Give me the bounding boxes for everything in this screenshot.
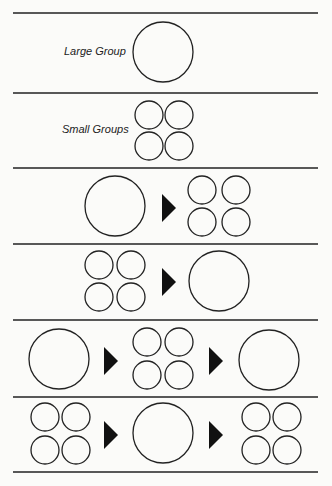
large-group-circle [133,403,193,463]
small-groups-cluster [85,251,145,311]
large-group-circle [133,22,193,82]
arrow-right-icon [162,268,176,296]
small-groups-cluster [135,101,193,160]
large-group-circle [239,330,299,390]
large-group-label: Large Group [64,45,126,57]
arrow-right-icon [209,421,223,449]
arrow-right-icon [162,194,176,222]
large-group-circle [85,176,145,236]
small-groups-cluster [188,176,250,236]
diagram-canvas [0,0,332,486]
arrow-right-icon [104,421,118,449]
small-groups-cluster [31,403,90,464]
arrow-right-icon [104,347,118,375]
arrow-right-icon [209,347,223,375]
large-group-circle [29,329,89,389]
small-groups-cluster [133,328,193,389]
small-groups-label: Small Groups [62,123,129,135]
small-groups-cluster [242,403,301,464]
large-group-circle [189,251,249,311]
